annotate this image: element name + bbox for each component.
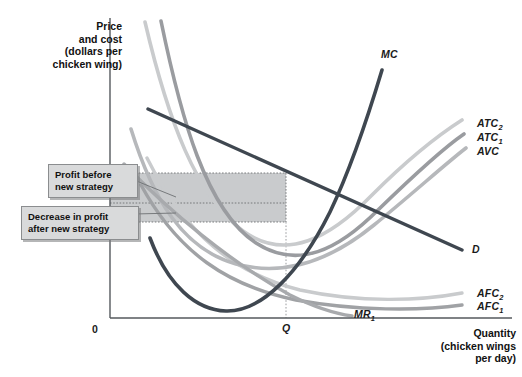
curve-label-mr1: MR1 [354,308,375,323]
quantity-tick-label: Q [282,322,290,334]
curve-label-atc2: ATC2 [477,117,503,132]
axis-origin-label: 0 [92,323,98,335]
curve-label-afc1-text: AFC [477,300,499,312]
curve-label-atc2-text: ATC [477,117,498,129]
callout-profit-before: Profit before new strategy [48,164,138,198]
x-axis-title: Quantity (chicken wings per day) [412,327,516,365]
curve-label-mc: MC [381,48,398,60]
curve-label-afc2-text: AFC [477,287,499,299]
economics-cost-curve-chart: Price and cost (dollars per chicken wing… [0,0,522,377]
curve-label-mr1-sub: 1 [371,314,375,323]
curve-label-atc1-text: ATC [477,131,498,143]
y-axis-title: Price and cost (dollars per chicken wing… [44,20,122,70]
curve-label-atc1: ATC1 [477,131,503,146]
callout-decrease-after: Decrease in profit after new strategy [21,206,139,240]
curve-label-demand: D [472,243,480,255]
curve-label-mr1-text: MR [354,308,371,320]
curve-label-avc: AVC [477,145,499,157]
curve-label-afc1: AFC1 [477,300,504,315]
curve-label-afc1-sub: 1 [499,306,503,315]
curve-label-atc1-sub: 1 [498,137,502,146]
